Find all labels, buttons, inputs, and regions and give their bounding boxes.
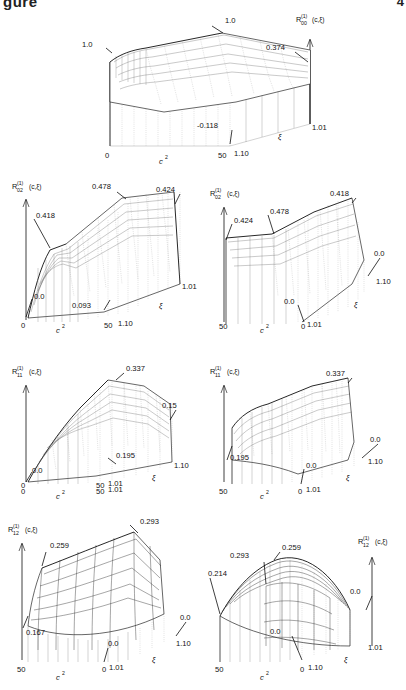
mesh-rows-r11a xyxy=(31,386,169,476)
z-label-sub: 11 xyxy=(215,372,220,378)
x-tick-0: 50 xyxy=(219,487,227,496)
y-tick-1: 1.10 xyxy=(174,461,189,470)
plot-r11-b-xlabel: 50 0 1.01 c 2 xyxy=(202,482,404,500)
z-label-sup: (1) xyxy=(215,365,222,371)
z-label-args: (c,ξ) xyxy=(227,368,239,376)
z-label-sub: 02 xyxy=(17,187,23,193)
annotation-front-origin-r02b: 0.0 xyxy=(284,297,304,322)
y-axis-r00: 1.10 1.01 ξ xyxy=(234,123,327,158)
annotation-text: 0.0 xyxy=(306,461,317,470)
annotation-text: 0.424 xyxy=(156,185,175,194)
annotation-back-peak-r12a: 0.293 xyxy=(130,517,159,533)
annotation-text: 0.374 xyxy=(266,43,285,52)
annotation-text: 0.0 xyxy=(108,639,119,648)
hatch-r12b xyxy=(220,560,290,662)
z-label-args: (c,ξ) xyxy=(29,183,41,191)
y-axis-label: ξ xyxy=(152,655,156,664)
annotation-text: 0.195 xyxy=(230,453,249,462)
annotation-text: 0.478 xyxy=(270,207,289,216)
z-axis-label-r00: R (1) 00 (c,ξ) xyxy=(296,13,324,26)
annotation-left-edge-r02a: 0.418 xyxy=(34,211,55,248)
annotation-left-far-r12b: 0.214 xyxy=(208,569,227,614)
y-tick-1: 1.10 xyxy=(176,639,191,648)
plot-r11-a: R (1) 11 (c,ξ) xyxy=(4,342,204,487)
y-tick-1: 1.10 xyxy=(234,149,249,158)
z-label-sup: (1) xyxy=(17,365,24,371)
x-axis-r12a: 50 0 c 2 xyxy=(17,665,106,682)
annotation-text: 0.0 xyxy=(284,297,295,306)
x-axis-label-sup: 2 xyxy=(62,323,65,329)
figure-page: gure 4 R (1) 00 (c,ξ) xyxy=(0,0,406,690)
plot-r11-a-xlabel: 0 50 1.01 c 2 xyxy=(4,482,204,500)
x-tick-1: 0 xyxy=(102,665,106,674)
hatch-r02b xyxy=(226,229,286,324)
mesh-rows-r02b xyxy=(228,204,356,266)
annotation-text: 0.478 xyxy=(92,182,111,191)
y-axis-label: ξ xyxy=(152,473,156,482)
x-axis-label-sup: 2 xyxy=(266,489,269,495)
annotation-text: 0.418 xyxy=(36,211,55,220)
annotation-origin-r11a: 0.0 xyxy=(26,466,43,482)
hatch-r02a xyxy=(38,242,78,322)
mesh-cols-r11b xyxy=(250,380,340,456)
y-axis-label: ξ xyxy=(346,473,350,482)
x-axis-label: c xyxy=(56,326,60,335)
hatch2-r11a xyxy=(88,382,172,483)
annotation-front-origin-r12b: 0.0 xyxy=(270,627,302,660)
z-label-sub: 11 xyxy=(17,372,22,378)
annotation-text: 0.259 xyxy=(50,541,69,550)
x-tick-1: 0 xyxy=(298,487,302,496)
x-tick-0: 0 xyxy=(21,487,25,496)
plot-r00: R (1) 00 (c,ξ) xyxy=(60,6,400,171)
annotation-ridge-r12b: 0.293 xyxy=(230,551,266,584)
plot-r12-a: R (1) 12 (c,ξ) xyxy=(4,500,204,675)
mesh-rows-r12b xyxy=(222,561,348,612)
plot-r02-a-xlabel: c 2 xyxy=(4,322,204,338)
annotation-text: 0.259 xyxy=(282,543,301,552)
z-label-sup: (1) xyxy=(13,523,20,529)
annotation-text: 0.0 xyxy=(270,627,281,636)
x-axis-label-sup: 2 xyxy=(266,670,269,676)
annotation-text: 0.167 xyxy=(26,628,45,637)
hatch2-r11b xyxy=(292,379,354,483)
mesh-cols-r02b xyxy=(272,203,342,296)
y-axis-label: ξ xyxy=(159,301,163,310)
z-label-sup: (1) xyxy=(17,180,24,186)
annotation-peak-back-r00: 1.0 xyxy=(212,16,236,33)
mesh-cols-r11a xyxy=(52,380,160,470)
z-label-sub: 12 xyxy=(13,530,19,536)
z-axis-r12a: R (1) 12 (c,ξ) xyxy=(8,523,37,660)
annotation-text: 0.0 xyxy=(350,587,361,596)
annotation-back-ridge-r02a: 0.478 xyxy=(92,182,126,199)
annotation-text: 1.0 xyxy=(82,40,93,49)
x-axis-label-sup: 2 xyxy=(62,489,65,495)
annotation-front-origin-r12a: 0.0 xyxy=(104,639,119,662)
z-label-sub: 12 xyxy=(363,542,369,548)
annotation-text: 0.0 xyxy=(370,435,381,444)
plot-r02-a: R (1) 02 (c,ξ) xyxy=(4,172,204,330)
z-axis-r02b: R (1) 02 (c,ξ) xyxy=(210,187,239,322)
x-tick-1: 0 xyxy=(300,665,304,674)
annotation-front-origin-r11b: 0.0 xyxy=(301,461,317,484)
x-tick-0: 50 xyxy=(215,665,223,674)
y-axis-label: ξ xyxy=(354,300,358,309)
y-tick-0: 1.10 xyxy=(308,663,323,672)
z-label-sup: (1) xyxy=(301,13,308,19)
annotation-text: 0.0 xyxy=(34,292,45,301)
plot-r12-b: R (1) 12 (c,ξ) xyxy=(202,500,404,675)
annotation-text: 0.214 xyxy=(208,569,227,578)
z-label-sub: 00 xyxy=(301,20,307,26)
x-axis-r00: 0 50 c 2 xyxy=(105,151,226,166)
plot-r11-b: R (1) 11 (c,ξ) xyxy=(202,342,404,487)
hatch-r11a xyxy=(38,414,78,484)
z-label-sub: 02 xyxy=(215,194,221,200)
y-axis-r11b: 1.10 ξ xyxy=(346,457,383,482)
y-tick-1: 1.10 xyxy=(368,457,383,466)
x-axis-label-sup: 2 xyxy=(62,670,65,676)
annotation-front-edge-r02a: 0.093 xyxy=(72,300,110,310)
z-label-args: (c,ξ) xyxy=(227,190,239,198)
y-axis-label: ξ xyxy=(278,132,282,141)
mesh-rows-r11b xyxy=(234,386,352,454)
annotation-text: 0.15 xyxy=(162,401,177,410)
plot-r02-b: R (1) 02 (c,ξ) xyxy=(202,172,404,330)
